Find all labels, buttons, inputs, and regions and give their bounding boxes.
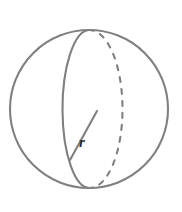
great-circle-front-arc <box>62 30 90 188</box>
sphere-figure: r <box>0 0 182 212</box>
sphere-outline-circle <box>10 30 168 188</box>
great-circle-back-arc <box>89 30 122 188</box>
sphere-diagram-canvas: r <box>0 0 182 212</box>
radius-label: r <box>79 134 85 150</box>
